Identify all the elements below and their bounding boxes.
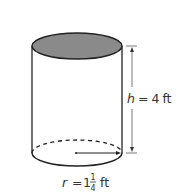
radius-fraction-numerator: 1	[90, 173, 95, 182]
height-value: 4	[151, 91, 159, 106]
height-arrow-down-icon	[130, 147, 134, 152]
height-var: h	[127, 91, 135, 106]
bottom-base-front-edge	[32, 153, 122, 166]
radius-fraction-denominator: 4	[90, 184, 95, 193]
top-base-shaded	[32, 33, 122, 59]
height-eq: =	[138, 91, 148, 106]
cylinder-diagram: h=4ft r = 1 1 4 ft	[0, 0, 179, 193]
radius-var: r	[62, 175, 68, 190]
radius-arrowhead-icon	[116, 151, 121, 155]
bottom-base-back-edge	[32, 140, 122, 153]
height-unit: ft	[162, 91, 171, 106]
height-label: h=4ft	[127, 91, 172, 106]
height-arrow-up-icon	[130, 47, 134, 52]
radius-unit: ft	[100, 175, 109, 190]
radius-eq: =	[72, 175, 82, 190]
